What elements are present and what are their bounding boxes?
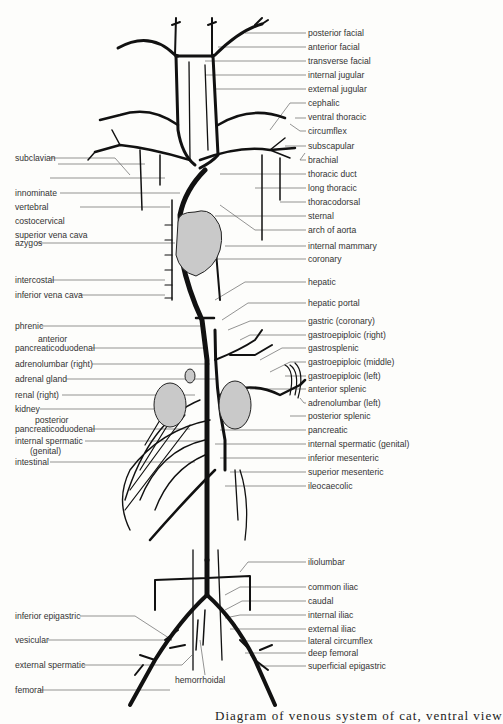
leader-lines-right	[205, 33, 306, 666]
label-subscapular: subscapular	[308, 141, 354, 151]
label-thoracic-duct: thoracic duct	[308, 169, 357, 179]
label-hepatic-portal: hepatic portal	[308, 298, 360, 308]
label-anterior-pancreaticoduodenal: pancreaticoduodenal	[15, 343, 95, 353]
label-inferior-epigastric: inferior epigastric	[15, 611, 80, 621]
label-circumflex: circumflex	[308, 126, 347, 136]
adrenal-gland	[185, 369, 195, 383]
label-iliolumbar: iliolumbar	[308, 557, 345, 567]
label-posterior-facial: posterior facial	[308, 28, 364, 38]
label-phrenic: phrenic	[15, 321, 43, 331]
label-innominate: innominate	[15, 188, 57, 198]
label-inferior-mesenteric: inferior mesenteric	[308, 453, 379, 463]
label-common-iliac: common iliac	[308, 582, 358, 592]
label-posterior-splenic: posterior splenic	[308, 411, 371, 421]
label-azygos: azygos	[15, 238, 42, 248]
label-vesicular: vesicular	[15, 635, 49, 645]
label-internal-jugular: internal jugular	[308, 70, 364, 80]
label-superficial-epigastric: superficial epigastric	[308, 661, 386, 671]
label-kidney: kidney	[15, 404, 40, 414]
label-adrenal-gland: adrenal gland	[15, 374, 67, 384]
label-external-iliac: external iliac	[308, 624, 356, 634]
label-transverse-facial: transverse facial	[308, 56, 371, 66]
label-sternal: sternal	[308, 211, 334, 221]
label-gastric-coronary: gastric (coronary)	[308, 316, 375, 326]
kidney-left	[219, 381, 251, 429]
label-caudal: caudal	[308, 596, 333, 606]
label-posterior-pancreaticoduodenal: pancreaticoduodenal	[15, 424, 95, 434]
label-adrenolumbar-left: adrenolumbar (left)	[308, 398, 381, 408]
label-external-jugular: external jugular	[308, 84, 367, 94]
label-hepatic: hepatic	[308, 277, 336, 287]
label-coronary: coronary	[308, 254, 341, 264]
label-arch-of-aorta: arch of aorta	[308, 225, 356, 235]
label-subclavian: subclavian	[15, 153, 56, 163]
label-internal-spermatic-genital: internal spermatic (genital)	[308, 439, 409, 449]
label-adrenolumbar-right: adrenolumbar (right)	[15, 359, 93, 369]
label-gastroepiploic-right: gastroepiploic (right)	[308, 330, 386, 340]
label-pancreatic: pancreatic	[308, 425, 348, 435]
label-superior-mesenteric: superior mesenteric	[308, 467, 383, 477]
label-hemorrhoidal: hemorrhoidal	[175, 675, 225, 685]
label-gastroepiploic-left: gastroepiploic (left)	[308, 371, 381, 381]
heart	[176, 211, 222, 276]
label-thoracodorsal: thoracodorsal	[308, 197, 360, 207]
label-cephalic: cephalic	[308, 98, 340, 108]
label-anterior-facial: anterior facial	[308, 42, 360, 52]
label-vertebral: vertebral	[15, 202, 48, 212]
label-gastrosplenic: gastrosplenic	[308, 343, 359, 353]
label-long-thoracic: long thoracic	[308, 183, 357, 193]
label-ileocaecolic: ileocaecolic	[308, 481, 352, 491]
label-anterior-splenic: anterior splenic	[308, 384, 366, 394]
label-costocervical: costocervical	[15, 216, 65, 226]
label-external-spermatic: external spermatic	[15, 660, 85, 670]
label-genital: (genital)	[30, 446, 61, 456]
label-lateral-circumflex: lateral circumflex	[308, 636, 372, 646]
label-femoral: femoral	[15, 685, 44, 695]
label-ventral-thoracic: ventral thoracic	[308, 112, 366, 122]
label-internal-iliac: internal iliac	[308, 610, 353, 620]
label-renal-right: renal (right)	[15, 390, 59, 400]
label-gastroepiploic-middle: gastroepiploic (middle)	[308, 357, 394, 367]
vessels	[88, 18, 305, 705]
label-internal-spermatic: internal spermatic	[15, 436, 83, 446]
label-intercostal: intercostal	[15, 275, 54, 285]
figure-caption: Diagram of venous system of cat, ventral…	[215, 708, 503, 724]
label-deep-femoral: deep femoral	[308, 648, 358, 658]
label-intestinal: intestinal	[15, 457, 49, 467]
kidney-right	[154, 383, 186, 427]
label-inferior-vena-cava: inferior vena cava	[15, 290, 83, 300]
label-brachial: brachial	[308, 155, 338, 165]
label-internal-mammary: internal mammary	[308, 241, 377, 251]
